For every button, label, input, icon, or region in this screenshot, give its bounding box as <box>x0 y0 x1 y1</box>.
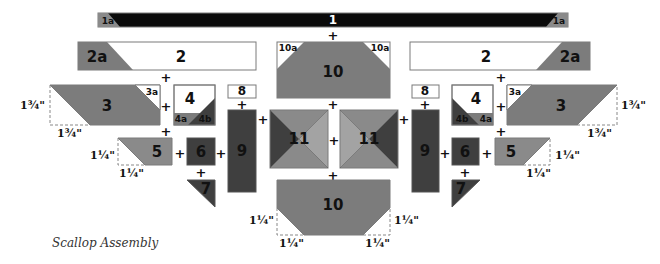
label-4-right: 4 <box>471 90 481 108</box>
diagram-caption: Scallop Assembly <box>52 236 158 250</box>
piece-11-left: 11 <box>270 110 328 168</box>
piece-5-left: 5 1¼" 1¼" <box>90 138 172 180</box>
plus-join: + <box>237 97 248 112</box>
piece-1: 1 1a 1a <box>98 13 568 27</box>
measurement-10-bottom-right-height: 1¼" <box>394 214 419 227</box>
plus-join: + <box>161 70 172 85</box>
label-7-right: 7 <box>456 180 466 198</box>
piece-5-right: 5 1¼" 1¼" <box>495 138 580 180</box>
piece-10-bottom: 10 1¼" 1¼" 1¼" 1¼" <box>249 180 419 250</box>
plus-join: + <box>420 97 431 112</box>
label-7-left: 7 <box>201 180 211 198</box>
measurement-5-right-width: 1¼" <box>526 167 551 180</box>
piece-10-top: 10a 10a 10 <box>277 42 390 98</box>
plus-join: + <box>399 112 410 127</box>
plus-join: + <box>161 124 172 139</box>
measurement-10-bottom-left-width: 1¼" <box>279 237 304 250</box>
piece-2-right: 2a 2 <box>410 42 590 70</box>
piece-3-left: 3a 3 1¾" 1¾" <box>20 85 160 140</box>
label-3a-left: 3a <box>146 87 158 97</box>
label-4-left: 4 <box>185 90 195 108</box>
label-2a-left: 2a <box>87 48 108 66</box>
piece-9-left: 9 <box>228 110 256 192</box>
plus-join: + <box>328 97 339 112</box>
label-1a-left: 1a <box>102 16 114 26</box>
piece-6-right: 6 <box>452 138 479 165</box>
piece-7-left: 7 <box>187 180 215 207</box>
label-4a-right: 4a <box>480 114 492 124</box>
label-5-left: 5 <box>152 143 162 161</box>
measurement-10-bottom-right-width: 1¼" <box>365 237 390 250</box>
label-9-right: 9 <box>420 142 430 160</box>
label-10-bottom: 10 <box>323 196 344 214</box>
plus-join: + <box>196 165 207 180</box>
label-6-right: 6 <box>460 143 470 161</box>
label-4a-left: 4a <box>175 114 187 124</box>
plus-join: + <box>258 112 269 127</box>
measurement-10-bottom-left-height: 1¼" <box>249 214 274 227</box>
piece-4-left: 4 4a 4b <box>174 85 215 125</box>
label-4b-left: 4b <box>199 114 212 124</box>
measurement-3-right-height: 1¾" <box>621 99 646 112</box>
plus-join: + <box>175 146 186 161</box>
label-11-right: 11 <box>359 130 380 148</box>
label-10a-right: 10a <box>371 43 390 53</box>
piece-6-left: 6 <box>187 138 215 165</box>
plus-join: + <box>328 28 339 43</box>
label-1a-right: 1a <box>553 16 565 26</box>
piece-7-right: 7 <box>452 180 480 207</box>
plus-join: + <box>329 133 340 148</box>
piece-4-right: 4 4b 4a <box>452 85 493 125</box>
label-10-top: 10 <box>323 63 344 81</box>
piece-9-right: 9 <box>412 110 439 192</box>
plus-join: + <box>496 99 507 114</box>
label-9-left: 9 <box>237 142 247 160</box>
measurement-3-left-height: 1¾" <box>20 99 45 112</box>
measurement-3-left-width: 1¾" <box>57 127 82 140</box>
measurement-5-left-width: 1¼" <box>119 167 144 180</box>
label-1: 1 <box>329 13 337 27</box>
plus-join: + <box>161 99 172 114</box>
plus-join: + <box>216 146 227 161</box>
label-3-left: 3 <box>102 97 112 115</box>
measurement-5-right-height: 1¼" <box>555 149 580 162</box>
label-2-right: 2 <box>481 48 491 66</box>
piece-2-left: 2a 2 <box>78 42 256 70</box>
scallop-assembly-diagram: 1 1a 1a + 2a 2 2a 2 10a 10a 10 + + + 3a … <box>0 0 660 264</box>
plus-join: + <box>496 124 507 139</box>
label-5-right: 5 <box>506 143 516 161</box>
label-3-right: 3 <box>556 97 566 115</box>
plus-join: + <box>440 146 451 161</box>
label-11-left: 11 <box>289 130 310 148</box>
label-2-left: 2 <box>176 48 186 66</box>
plus-join: + <box>460 165 471 180</box>
label-2a-right: 2a <box>560 48 581 66</box>
piece-11-right: 11 <box>340 110 398 168</box>
label-3a-right: 3a <box>509 87 521 97</box>
piece-3-right: 3a 3 1¾" 1¾" <box>507 85 646 140</box>
measurement-3-right-width: 1¾" <box>587 127 612 140</box>
plus-join: + <box>496 70 507 85</box>
label-6-left: 6 <box>196 143 206 161</box>
plus-join: + <box>482 146 493 161</box>
label-4b-right: 4b <box>456 114 469 124</box>
label-10a-left: 10a <box>279 43 298 53</box>
measurement-5-left-height: 1¼" <box>90 149 115 162</box>
